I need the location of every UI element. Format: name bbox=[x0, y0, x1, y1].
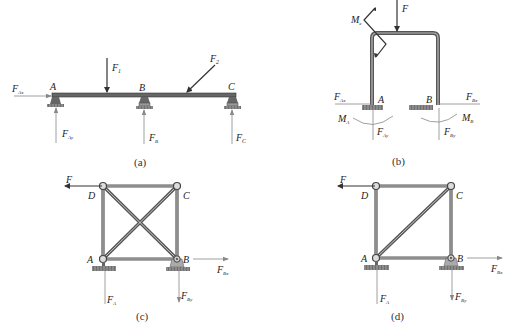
label-c: C bbox=[183, 190, 190, 201]
label-d: D bbox=[360, 190, 369, 201]
label-f2: F2 bbox=[209, 53, 219, 65]
caption-c: (c) bbox=[136, 310, 149, 323]
label-b: B bbox=[426, 94, 432, 105]
figure-a-beam: A B C F1 F2 FAx FAy FB FC (a) bbox=[11, 53, 247, 169]
label-fbx: FBx bbox=[465, 91, 478, 103]
support-a bbox=[364, 261, 389, 270]
label-a: A bbox=[49, 81, 57, 92]
fixed-support-b bbox=[409, 105, 433, 110]
joint-a bbox=[100, 256, 107, 263]
label-fby: FBy bbox=[454, 291, 467, 303]
figure-b-frame: Me F A B FAx FBx MA MB FAy FBy (b) bbox=[333, 0, 480, 168]
figure-d-truss: F D C A B FBx FA FBy (d) bbox=[338, 174, 503, 323]
caption-b: (b) bbox=[392, 155, 405, 168]
label-fax: FAx bbox=[11, 83, 24, 95]
label-a: A bbox=[377, 94, 385, 105]
support-a bbox=[92, 262, 116, 271]
label-c: C bbox=[456, 190, 463, 201]
figure-c-truss: F D C A B FBx FA FBy (c) bbox=[65, 174, 229, 323]
label-fay: FAy bbox=[376, 126, 389, 138]
label-f1: F1 bbox=[111, 62, 121, 74]
pin-support-a bbox=[47, 97, 64, 107]
label-fc: FC bbox=[235, 132, 247, 144]
label-fby: FBy bbox=[180, 290, 193, 302]
roller-support-b bbox=[136, 97, 153, 109]
label-me: Me bbox=[350, 14, 362, 26]
label-fa: FA bbox=[379, 293, 390, 305]
label-c: C bbox=[228, 81, 235, 92]
diagram-canvas: A B C F1 F2 FAx FAy FB FC (a) Me F A bbox=[0, 0, 511, 329]
label-f: F bbox=[65, 174, 73, 185]
label-d: D bbox=[87, 190, 96, 201]
caption-a: (a) bbox=[134, 156, 147, 169]
label-fa: FA bbox=[106, 294, 117, 306]
label-fay: FAy bbox=[61, 128, 74, 140]
label-a: A bbox=[360, 253, 368, 264]
caption-d: (d) bbox=[391, 310, 404, 323]
beam bbox=[52, 93, 236, 97]
label-ma: MA bbox=[337, 113, 350, 125]
label-fby: FBy bbox=[443, 126, 456, 138]
label-fb: FB bbox=[148, 132, 158, 144]
label-b: B bbox=[457, 253, 463, 264]
label-mb: MB bbox=[461, 112, 473, 124]
label-b: B bbox=[183, 254, 189, 265]
label-a: A bbox=[86, 254, 94, 265]
joint-c bbox=[448, 183, 455, 190]
label-fax: FAx bbox=[333, 91, 346, 103]
label-fbx: FBx bbox=[490, 263, 503, 275]
joint-c bbox=[174, 183, 181, 190]
label-fbx: FBx bbox=[216, 264, 229, 276]
joint-a bbox=[373, 255, 380, 262]
label-b: B bbox=[139, 82, 145, 93]
label-f: F bbox=[401, 3, 409, 14]
fixed-support-a bbox=[362, 105, 383, 110]
force-f2-arrow bbox=[187, 65, 215, 92]
label-f: F bbox=[339, 174, 347, 185]
roller-support-c bbox=[224, 97, 241, 109]
